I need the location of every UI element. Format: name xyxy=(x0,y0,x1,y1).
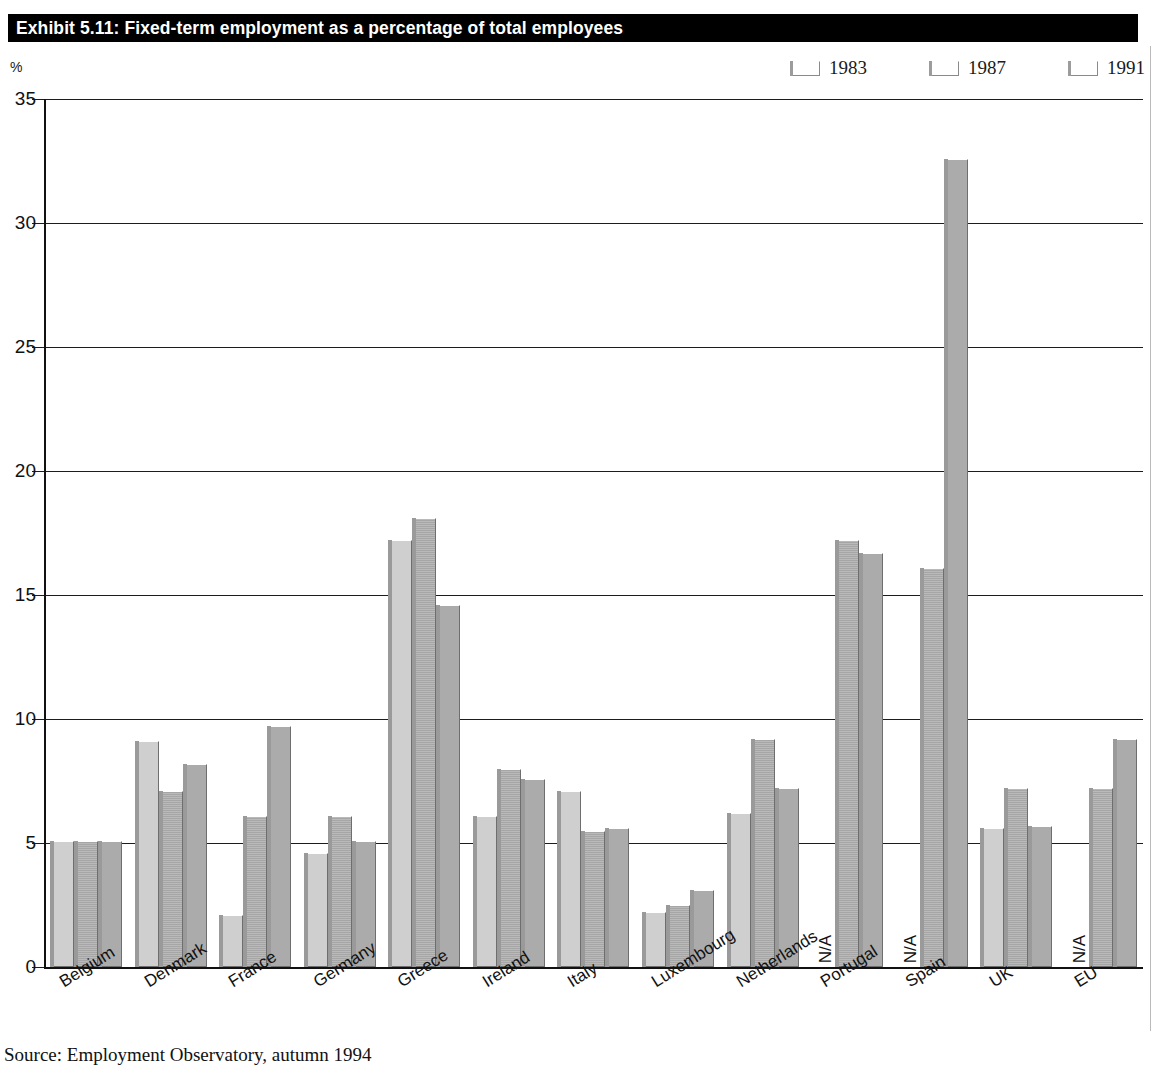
exhibit-title: Exhibit 5.11: Fixed-term employment as a… xyxy=(8,14,1138,42)
bar xyxy=(388,540,412,967)
bar xyxy=(159,791,183,967)
bar-group xyxy=(44,99,129,967)
bar xyxy=(642,912,666,967)
x-axis-label: EU xyxy=(1071,962,1102,991)
bar xyxy=(980,828,1004,967)
y-axis-unit-label: % xyxy=(10,59,22,75)
legend-swatch-1991 xyxy=(1068,61,1098,76)
legend-item-1983: 1983 xyxy=(790,57,867,79)
bar-series-container: N/AN/AN/A xyxy=(44,99,1143,967)
exhibit-right-rule xyxy=(1150,46,1151,1031)
bar-group xyxy=(467,99,552,967)
bar xyxy=(304,853,328,967)
bar xyxy=(944,159,968,967)
bar xyxy=(328,816,352,967)
bar xyxy=(1004,788,1028,967)
y-tick-label-15: 15 xyxy=(0,584,36,606)
y-tick-label-30: 30 xyxy=(0,212,36,234)
bar xyxy=(835,540,859,967)
bar xyxy=(605,828,629,967)
bar xyxy=(74,841,98,967)
bar xyxy=(751,739,775,967)
bar xyxy=(436,605,460,967)
bar-group xyxy=(720,99,805,967)
legend-swatch-1987 xyxy=(929,61,959,76)
bar xyxy=(243,816,267,967)
x-axis-labels: BelgiumDenmarkFranceGermanyGreeceIreland… xyxy=(0,967,1159,1047)
bar xyxy=(1089,788,1113,967)
legend-label-1987: 1987 xyxy=(968,57,1006,79)
y-tick-label-35: 35 xyxy=(0,88,36,110)
legend-label-1983: 1983 xyxy=(829,57,867,79)
bar xyxy=(135,741,159,967)
bar xyxy=(50,841,74,967)
source-note: Source: Employment Observatory, autumn 1… xyxy=(4,1044,372,1066)
bar xyxy=(920,568,944,967)
bar xyxy=(412,518,436,967)
bar-group: N/A xyxy=(1058,99,1143,967)
legend-item-1991: 1991 xyxy=(1068,57,1145,79)
bar xyxy=(497,769,521,967)
y-tick-label-25: 25 xyxy=(0,336,36,358)
bar-group xyxy=(382,99,467,967)
bar xyxy=(1113,739,1137,967)
bar-group xyxy=(129,99,214,967)
bar-group: N/A xyxy=(805,99,890,967)
x-axis-label: UK xyxy=(986,962,1017,991)
bar-group xyxy=(974,99,1059,967)
bar-group: N/A xyxy=(889,99,974,967)
bar-group xyxy=(298,99,383,967)
bar xyxy=(557,791,581,967)
bar-group xyxy=(551,99,636,967)
bar xyxy=(473,816,497,967)
bar xyxy=(859,553,883,967)
bar xyxy=(267,726,291,967)
bar-group xyxy=(636,99,721,967)
bar xyxy=(581,831,605,967)
legend-label-1991: 1991 xyxy=(1107,57,1145,79)
bar-group xyxy=(213,99,298,967)
bar xyxy=(219,915,243,967)
y-tick-label-20: 20 xyxy=(0,460,36,482)
y-tick-label-5: 5 xyxy=(0,832,36,854)
legend-item-1987: 1987 xyxy=(929,57,1006,79)
bar xyxy=(521,779,545,967)
chart-legend: 1983 1987 1991 xyxy=(790,57,1145,79)
y-tick-label-10: 10 xyxy=(0,708,36,730)
bar xyxy=(183,764,207,967)
legend-swatch-1983 xyxy=(790,61,820,76)
bar xyxy=(1028,826,1052,967)
